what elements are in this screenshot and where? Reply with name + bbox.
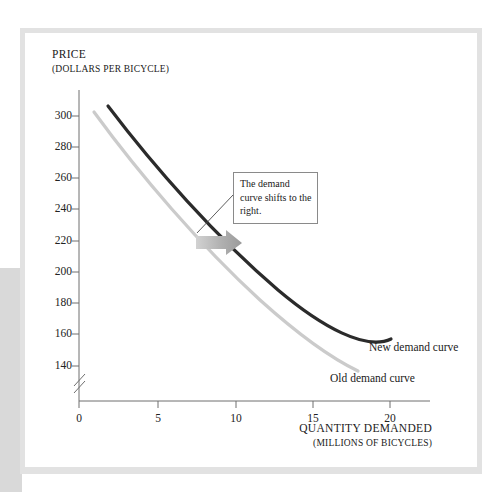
old-demand-curve-label: Old demand curve	[330, 372, 415, 384]
xtick-label: 0	[64, 412, 94, 424]
ytick-label: 200	[38, 265, 72, 277]
ytick-label: 300	[38, 109, 72, 121]
annotation-callout: The demand curve shifts to the right.	[233, 172, 318, 224]
ytick-label: 240	[38, 202, 72, 214]
ytick-label: 220	[38, 234, 72, 246]
new-demand-curve-label: New demand curve	[369, 341, 458, 353]
annotation-leader-line	[197, 195, 233, 233]
new-demand-curve	[108, 106, 391, 342]
xtick-label: 5	[143, 412, 173, 424]
ytick-label: 140	[38, 359, 72, 371]
ytick-label: 180	[38, 296, 72, 308]
xtick-label: 20	[375, 412, 405, 424]
y-axis-ticks	[72, 116, 79, 366]
ytick-label: 280	[38, 140, 72, 152]
ytick-label: 160	[38, 327, 72, 339]
x-axis-ticks	[79, 401, 390, 408]
ytick-label: 260	[38, 171, 72, 183]
xtick-label: 15	[298, 412, 328, 424]
xtick-label: 10	[221, 412, 251, 424]
